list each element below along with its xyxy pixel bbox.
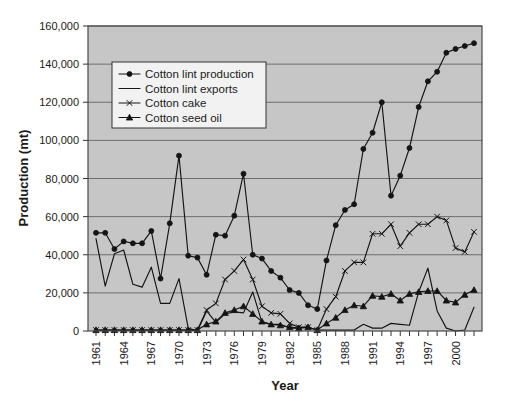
y-tick-label: 80,000 [45, 173, 79, 185]
data-point-marker [204, 272, 209, 277]
y-axis-tick-labels: 020,00040,00060,00080,000100,000120,0001… [39, 20, 79, 337]
data-point-marker [379, 100, 384, 105]
data-point-marker [140, 241, 145, 246]
data-point-marker [425, 79, 430, 84]
legend-item-label: Cotton seed oil [145, 112, 222, 124]
x-tick-label: 1976 [228, 341, 240, 365]
data-point-marker [149, 228, 154, 233]
data-point-marker [389, 193, 394, 198]
x-axis-title: Year [271, 378, 298, 393]
data-point-marker [94, 230, 99, 235]
y-tick-label: 20,000 [45, 287, 79, 299]
data-point-marker [158, 276, 163, 281]
y-axis-title: Production (mt) [16, 130, 31, 227]
x-tick-label: 1970 [173, 341, 185, 365]
x-tick-label: 1979 [256, 341, 268, 365]
y-tick-label: 0 [73, 325, 79, 337]
x-tick-label: 1964 [118, 341, 130, 365]
x-tick-label: 1988 [339, 341, 351, 365]
y-tick-label: 100,000 [39, 134, 79, 146]
data-point-marker [416, 105, 421, 110]
data-point-marker [342, 207, 347, 212]
data-point-marker [324, 258, 329, 263]
x-tick-label: 1985 [311, 341, 323, 365]
data-point-marker [176, 153, 181, 158]
data-point-marker [352, 202, 357, 207]
data-point-marker [435, 69, 440, 74]
data-point-marker [223, 233, 228, 238]
data-point-marker [112, 247, 117, 252]
data-point-marker [130, 241, 135, 246]
x-tick-label: 2000 [450, 341, 462, 365]
y-tick-label: 160,000 [39, 20, 79, 32]
data-point-marker [121, 239, 126, 244]
data-point-marker [333, 223, 338, 228]
legend-item-label: Cotton lint exports [145, 83, 238, 95]
y-tick-label: 40,000 [45, 249, 79, 261]
x-tick-label: 1991 [367, 341, 379, 365]
data-point-marker [315, 307, 320, 312]
legend-item-label: Cotton lint production [145, 68, 254, 80]
x-tick-label: 1973 [201, 341, 213, 365]
chart-container: 020,00040,00060,00080,000100,000120,0001… [0, 0, 509, 404]
data-point-marker [453, 46, 458, 51]
legend-item-label: Cotton cake [145, 97, 206, 109]
x-tick-label: 1982 [284, 341, 296, 365]
x-tick-label: 1997 [422, 341, 434, 365]
data-point-marker [472, 41, 477, 46]
y-tick-label: 120,000 [39, 96, 79, 108]
data-point-marker [287, 288, 292, 293]
data-point-marker [127, 72, 132, 77]
data-point-marker [103, 230, 108, 235]
data-point-marker [278, 275, 283, 280]
data-point-marker [361, 146, 366, 151]
x-tick-label: 1961 [90, 341, 102, 365]
y-tick-label: 60,000 [45, 211, 79, 223]
production-line-chart: 020,00040,00060,00080,000100,000120,0001… [0, 0, 509, 404]
chart-legend: Cotton lint productionCotton lint export… [112, 62, 266, 128]
data-point-marker [269, 268, 274, 273]
data-point-marker [186, 253, 191, 258]
data-point-marker [296, 290, 301, 295]
y-tick-label: 140,000 [39, 58, 79, 70]
data-point-marker [407, 146, 412, 151]
data-point-marker [462, 44, 467, 49]
data-point-marker [398, 173, 403, 178]
data-point-marker [444, 50, 449, 55]
data-point-marker [370, 130, 375, 135]
data-point-marker [259, 256, 264, 261]
data-point-marker [306, 303, 311, 308]
data-point-marker [241, 171, 246, 176]
data-point-marker [250, 252, 255, 257]
data-point-marker [195, 255, 200, 260]
data-point-marker [213, 232, 218, 237]
x-tick-label: 1994 [394, 341, 406, 365]
data-point-marker [232, 213, 237, 218]
x-tick-label: 1967 [145, 341, 157, 365]
data-point-marker [167, 221, 172, 226]
